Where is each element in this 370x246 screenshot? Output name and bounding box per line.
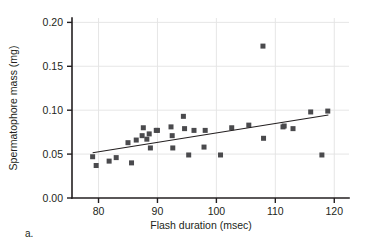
data-point-marker — [229, 125, 234, 130]
data-point-marker — [125, 140, 130, 145]
data-point-marker — [319, 152, 324, 157]
data-point-marker — [147, 131, 152, 136]
y-tick-label: 0.05 — [43, 148, 64, 160]
data-point-marker — [129, 160, 134, 165]
data-point-marker — [282, 124, 287, 129]
data-point-marker — [203, 128, 208, 133]
data-point-marker — [218, 152, 223, 157]
y-tick-label: 0.20 — [43, 16, 64, 28]
grid-lines — [72, 18, 349, 198]
trend-line — [93, 115, 329, 153]
data-point-marker — [308, 109, 313, 114]
y-tick-label: 0.10 — [43, 104, 64, 116]
data-point-marker — [94, 163, 99, 168]
x-tick-label: 110 — [267, 205, 284, 217]
data-point-marker — [114, 155, 119, 160]
x-tick-label: 100 — [208, 205, 226, 217]
x-axis-ticks: 8090100110120 — [93, 198, 344, 217]
data-point-marker — [134, 138, 139, 143]
x-axis-title: Flash duration (msec) — [150, 219, 252, 231]
data-point-marker — [181, 114, 186, 119]
y-axis-ticks: 0.000.050.100.150.20 — [43, 16, 72, 204]
data-point-marker — [140, 133, 145, 138]
data-point-marker — [186, 152, 191, 157]
data-point-marker — [260, 44, 265, 49]
data-point-marker — [170, 145, 175, 150]
x-tick-label: 90 — [152, 205, 164, 217]
data-point-marker — [90, 154, 95, 159]
data-point-marker — [325, 109, 330, 114]
data-point-marker — [261, 136, 266, 141]
regression-line — [93, 115, 329, 153]
data-point-marker — [144, 137, 149, 142]
y-tick-label: 0.15 — [43, 60, 64, 72]
data-points — [90, 44, 330, 168]
data-point-marker — [246, 123, 251, 128]
figure-panel-a: 0.000.050.100.150.20 8090100110120 Flash… — [0, 0, 370, 246]
data-point-marker — [155, 128, 160, 133]
x-tick-label: 80 — [93, 205, 105, 217]
data-point-marker — [202, 145, 207, 150]
panel-label: a. — [25, 228, 33, 239]
data-point-marker — [141, 125, 146, 130]
data-point-marker — [148, 145, 153, 150]
data-point-marker — [191, 128, 196, 133]
data-point-marker — [169, 124, 174, 129]
data-point-marker — [170, 133, 175, 138]
data-point-marker — [107, 159, 112, 164]
data-point-marker — [291, 126, 296, 131]
scatter-chart: 0.000.050.100.150.20 8090100110120 Flash… — [0, 0, 370, 246]
x-tick-label: 120 — [326, 205, 344, 217]
axes — [72, 18, 349, 198]
y-tick-label: 0.00 — [43, 192, 64, 204]
data-point-marker — [182, 126, 187, 131]
y-axis-title: Spermatophore mass (mg) — [7, 46, 19, 171]
